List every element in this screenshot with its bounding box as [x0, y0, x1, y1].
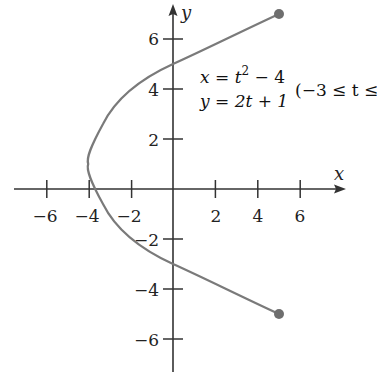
parametric-plot: −6 −4 −2 2 4 6 6 4 2 −2 −4 −6 x y x = t2…	[0, 0, 377, 377]
equation-x: x = t2 − 4	[200, 64, 285, 87]
x-tick-labels: −6 −4 −2 2 4 6	[32, 206, 305, 226]
equation-y: y = 2t + 1	[199, 91, 288, 111]
curve-endpoint-end	[274, 9, 284, 19]
axes	[14, 12, 338, 372]
x-tick-label: 2	[211, 206, 222, 226]
y-tick-label: −2	[134, 230, 159, 250]
x-tick-label: −6	[32, 206, 57, 226]
x-tick-label: 6	[295, 206, 306, 226]
x-tick-label: −4	[74, 206, 99, 226]
y-axis-label: y	[180, 2, 192, 23]
y-tick-label: 4	[148, 80, 159, 100]
y-tick-label: −6	[134, 330, 159, 350]
x-tick-label: 4	[253, 206, 264, 226]
x-axis-label: x	[334, 163, 344, 184]
y-tick-label: 2	[148, 130, 159, 150]
y-tick-label: 6	[148, 29, 159, 49]
parametric-curve	[88, 14, 279, 314]
y-tick-label: −4	[134, 280, 159, 300]
equation-block: x = t2 − 4 y = 2t + 1 (−3 ≤ t ≤	[199, 64, 377, 111]
x-tick-label: −2	[116, 206, 141, 226]
curve-endpoint-start	[274, 309, 284, 319]
parameter-domain: (−3 ≤ t ≤	[295, 80, 377, 100]
